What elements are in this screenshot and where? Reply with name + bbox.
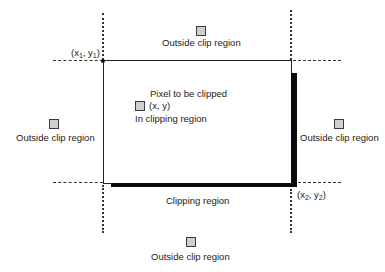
guide-line-bottom-right — [298, 182, 341, 183]
corner-label-bottom-right: (x2, y2)(x2, y2) — [297, 189, 326, 203]
pixel-inside — [135, 101, 145, 111]
label-pixel-to-be-clipped: Pixel to be clipped — [150, 88, 227, 99]
label-outside-left: Outside clip region — [16, 132, 95, 143]
guide-line-top-right — [293, 60, 341, 61]
pixel-outside-top — [196, 26, 206, 36]
clip-window-shadow-bottom — [111, 183, 297, 187]
label-outside-right: Outside clip region — [300, 132, 379, 143]
label-outside-bottom: Outside clip region — [151, 251, 230, 262]
label-in-clipping-region: In clipping region — [135, 113, 207, 124]
pixel-outside-right — [334, 119, 344, 129]
pixel-outside-bottom — [186, 237, 196, 247]
clip-window-shadow-right — [291, 73, 297, 187]
corner-point-top-left — [101, 59, 105, 63]
guide-line-bottom-left — [53, 182, 103, 183]
label-pixel-coords: (x, y) — [149, 100, 170, 111]
corner-label-top-left: (x1, y1)(x1, y1) — [71, 47, 100, 61]
pixel-outside-left — [49, 119, 59, 129]
guide-line-left-bottom — [102, 185, 104, 233]
guide-line-right-top — [290, 10, 292, 60]
guide-line-right-bottom — [290, 189, 292, 233]
label-outside-top: Outside clip region — [162, 37, 241, 48]
guide-line-left-top — [102, 13, 104, 60]
label-clipping-region: Clipping region — [166, 195, 229, 206]
